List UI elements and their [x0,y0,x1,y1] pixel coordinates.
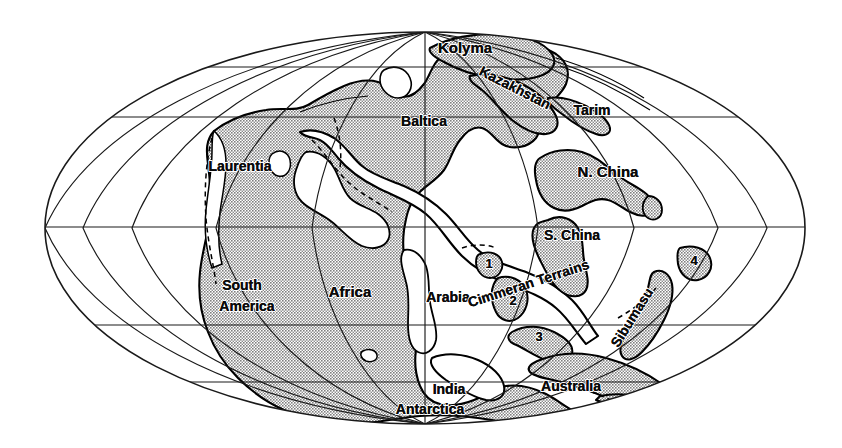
terrane-4-number: 44 [690,253,698,268]
n-china-text: N. China [578,163,639,180]
australia-text: Australia [541,378,601,394]
terrane-1-number: 11 [485,256,492,271]
arabia-label: ArabiaArabia [426,289,470,305]
baltica-text: Baltica [401,113,447,129]
terrane-3-text: 3 [535,329,542,344]
terrane-1-text: 1 [485,256,492,271]
america-text: America [219,298,274,314]
terrane-2-number: 22 [509,293,516,308]
india-label: IndiaIndia [433,381,466,397]
baltica-label: BalticaBaltica [401,113,447,129]
paleogeographic-map: KolymaKolymaKazakhstanKazakhstanTarimTar… [0,0,842,448]
arabia-text: Arabia [426,289,470,305]
india-text: India [433,381,466,397]
s-china-label: S. ChinaS. China [544,227,600,243]
south-label: SouthSouth [222,277,262,293]
s-china-text: S. China [544,227,600,243]
laurentia-label: LaurentiaLaurentia [208,158,271,174]
terrane-3-number: 33 [535,329,542,344]
africa-text: Africa [329,283,372,300]
antarctica-label: AntarcticaAntarctica [396,401,465,417]
antarctica-text: Antarctica [396,401,465,417]
kolyma-label: KolymaKolyma [438,39,493,56]
america-label: AmericaAmerica [219,298,274,314]
map-canvas: KolymaKolymaKazakhstanKazakhstanTarimTar… [0,0,842,448]
laurentia-text: Laurentia [208,158,271,174]
terrane-2-text: 2 [509,293,516,308]
kolyma-text: Kolyma [438,39,493,56]
n-china-label: N. ChinaN. China [578,163,639,180]
tarim-label: TarimTarim [573,102,610,118]
south-text: South [222,277,262,293]
laurentia-inner-detail [269,151,290,176]
africa-inland-lake [361,350,377,362]
terrane-4-text: 4 [690,253,698,268]
africa-label: AfricaAfrica [329,283,372,300]
tarim-text: Tarim [573,102,610,118]
australia-label: AustraliaAustralia [541,378,601,394]
